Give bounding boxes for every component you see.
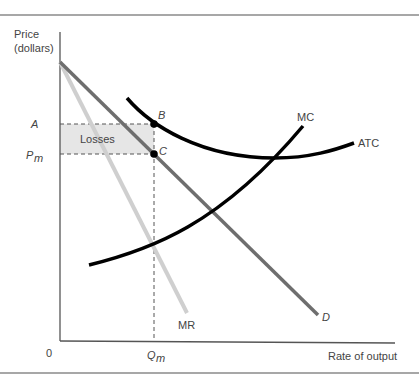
demand-curve <box>60 62 318 315</box>
point-b-label: B <box>158 109 165 121</box>
mc-label: MC <box>297 111 314 123</box>
point-c-label: C <box>159 145 167 157</box>
x-axis-label: Rate of output <box>328 350 397 362</box>
y-axis-label: Price <box>14 28 39 40</box>
quantity-qm-subscript: m <box>156 352 165 364</box>
point-c <box>150 150 158 158</box>
monopoly-loss-diagram: Price (dollars) A P m Losses B C MC ATC … <box>0 0 419 386</box>
price-pm-label: P <box>26 149 34 161</box>
demand-label: D <box>322 311 330 323</box>
mr-label: MR <box>178 319 195 331</box>
marginal-revenue-curve <box>60 62 187 313</box>
losses-label: Losses <box>80 133 115 145</box>
y-axis-label-unit: (dollars) <box>14 42 54 54</box>
x-axis <box>60 341 395 343</box>
point-b <box>150 120 158 128</box>
origin-label: 0 <box>46 347 52 359</box>
quantity-qm-label: Q <box>147 349 156 361</box>
price-a-label: A <box>30 118 38 130</box>
price-pm-subscript: m <box>34 152 43 164</box>
atc-label: ATC <box>358 137 379 149</box>
